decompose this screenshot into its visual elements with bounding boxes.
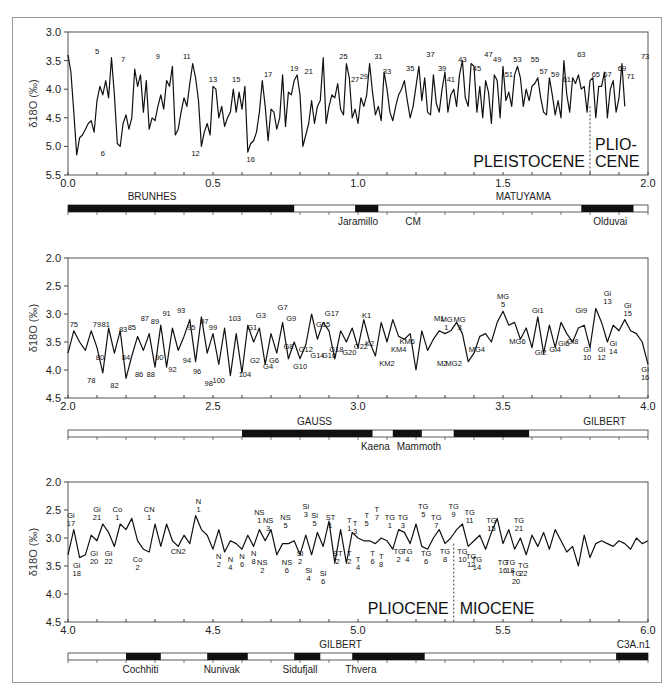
stage-label: MG4 <box>469 345 485 354</box>
stage-label: 92 <box>168 365 176 374</box>
stage-label: 63 <box>577 50 585 59</box>
x-tick-label: 4.0 <box>640 400 655 412</box>
subchron-label: Olduvai <box>593 216 627 227</box>
stage-label: 75 <box>70 320 78 329</box>
stage-label: 3 <box>353 527 357 536</box>
y-axis-label: δ18O (‰) <box>27 304 39 352</box>
normal-polarity-interval <box>352 653 425 660</box>
subchron-label: Sidufjall <box>282 664 317 675</box>
stage-label: G3 <box>256 311 266 320</box>
y-tick-label: 4.0 <box>46 364 61 376</box>
stage-label: 4 <box>356 563 360 572</box>
stage-label: 21 <box>93 513 101 522</box>
stage-label: 31 <box>374 52 382 61</box>
stage-label: 22 <box>104 557 112 566</box>
stage-label: 11 <box>466 516 474 525</box>
x-tick-label: 6.0 <box>640 624 655 636</box>
stage-label: 94 <box>183 356 191 365</box>
stage-label: 5 <box>95 47 99 56</box>
y-tick-label: 3.0 <box>46 308 61 320</box>
epoch-label: PLIOCENE <box>368 600 449 617</box>
y-tick-label: 5.5 <box>46 169 61 181</box>
x-tick-label: 2.0 <box>640 177 655 189</box>
subchron-label: CM <box>405 216 421 227</box>
stage-label: 25 <box>339 52 347 61</box>
x-tick-label: 1.0 <box>350 177 365 189</box>
stage-label: 33 <box>383 67 391 76</box>
stage-label: 5 <box>501 300 505 309</box>
stage-label: G7 <box>278 303 288 312</box>
x-tick-label: 2.0 <box>60 400 75 412</box>
chron-label: C3A.n1 <box>617 639 651 650</box>
stage-label: 1 <box>388 521 392 530</box>
stage-label: 4 <box>228 563 232 572</box>
x-tick-label: 0.5 <box>205 177 220 189</box>
stage-label: 9 <box>452 510 456 519</box>
oxygen-isotope-figure: 3.03.54.04.55.05.50.00.51.01.52.0δ18O (‰… <box>0 0 670 693</box>
subchron-label: Mammoth <box>397 441 441 452</box>
y-tick-label: 5.0 <box>46 140 61 152</box>
stage-label: Gi8 <box>567 337 579 346</box>
stage-label: CN2 <box>171 547 186 556</box>
stage-label: 16 <box>247 155 255 164</box>
epoch-label: PLEISTOCENE <box>473 153 585 170</box>
stage-label: 41 <box>447 75 455 84</box>
stage-label: 86 <box>135 370 143 379</box>
stage-label: 29 <box>360 72 368 81</box>
x-tick-label: 1.5 <box>495 177 510 189</box>
y-tick-label: 2.5 <box>46 280 61 292</box>
stage-label: 87 <box>141 314 149 323</box>
stage-label: G2 <box>250 356 260 365</box>
stage-label: 53 <box>513 55 521 64</box>
stage-label: 79 <box>93 320 101 329</box>
stage-label: 8 <box>443 555 447 564</box>
polarity-timescale: GILBERTC3A.n1CochhitiNunivakSidufjallThv… <box>68 639 651 675</box>
stage-label: 43 <box>458 55 466 64</box>
y-tick-label: 3.0 <box>46 532 61 544</box>
x-tick-label: 2.5 <box>205 400 220 412</box>
stage-label: G15 <box>316 320 330 329</box>
stage-label: G1 <box>247 323 257 332</box>
epoch-label: CENE <box>595 153 639 170</box>
stage-label: 78 <box>87 376 95 385</box>
stage-label: 14 <box>609 347 617 356</box>
stage-label: 71 <box>626 72 634 81</box>
stage-label: 55 <box>531 55 539 64</box>
stage-label: K1 <box>362 311 371 320</box>
y-tick-label: 2.0 <box>46 252 61 264</box>
stage-label: G17 <box>325 309 339 318</box>
stage-label: 5 <box>283 521 287 530</box>
stage-label: 103 <box>228 314 241 323</box>
stage-label: G6 <box>269 356 279 365</box>
stage-label: 85 <box>128 323 136 332</box>
stage-label: 99 <box>209 323 217 332</box>
stage-label: G10 <box>293 362 307 371</box>
stage-label: KM4 <box>391 345 406 354</box>
stage-label: 15 <box>487 524 495 533</box>
y-tick-label: 3.5 <box>46 336 61 348</box>
y-tick-label: 3.5 <box>46 55 61 67</box>
stage-label: 59 <box>551 70 559 79</box>
stage-label: KM6 <box>400 337 415 346</box>
stage-label: MG2 <box>446 359 462 368</box>
chron-label: MATUYAMA <box>496 191 552 202</box>
normal-polarity-interval <box>294 653 320 660</box>
stage-label: 5 <box>421 510 425 519</box>
normal-polarity-interval <box>393 430 422 437</box>
stage-label: 12 <box>597 353 605 362</box>
stage-label: 6 <box>240 560 244 569</box>
stage-label: 1 <box>444 323 448 332</box>
stage-label: 104 <box>239 370 252 379</box>
y-axis-label: δ18O (‰) <box>27 79 39 127</box>
stage-label: 14 <box>473 563 481 572</box>
stage-label: 20 <box>90 557 98 566</box>
y-tick-label: 2.5 <box>46 504 61 516</box>
chart-panel-2: 2.02.53.03.54.04.52.02.53.03.54.0δ18O (‰… <box>27 252 656 452</box>
normal-polarity-interval <box>616 653 648 660</box>
stage-label: 3 <box>304 510 308 519</box>
stage-label: 67 <box>603 70 611 79</box>
epoch-label: MIOCENE <box>460 600 535 617</box>
stage-label: 7 <box>434 521 438 530</box>
x-tick-label: 4.0 <box>60 624 75 636</box>
stage-label: 47 <box>484 50 492 59</box>
